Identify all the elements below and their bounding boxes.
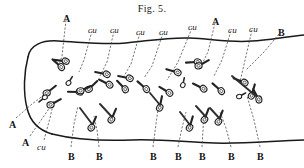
label-cu-top-6: cu: [228, 26, 237, 35]
label-cu-top-4: cu: [159, 28, 168, 37]
leader-A-left-2: [30, 104, 52, 136]
leader-cu-3: [124, 33, 140, 76]
nerve-end-organs-left: [37, 85, 91, 108]
leader-cu-2: [100, 31, 114, 76]
label-cu-top-2: cu: [110, 26, 119, 35]
label-B-bottom-4: B: [175, 152, 182, 162]
leader-A-left-1: [16, 95, 44, 118]
label-A-top-left: A: [63, 14, 70, 24]
label-cu-top-7: cu: [249, 25, 258, 34]
leader-B-6: [220, 112, 231, 147]
label-A-top-right: A: [212, 17, 219, 27]
leader-B-7: [247, 96, 260, 147]
label-cu-left: cu: [37, 143, 46, 152]
label-B-bottom-5: B: [199, 152, 206, 162]
label-cu-top-1: cu: [88, 26, 97, 35]
leader-cu-6: [214, 31, 231, 76]
label-B-bottom-7: B: [257, 152, 264, 162]
label-A-left-1: A: [9, 120, 16, 130]
leader-B-1: [71, 106, 78, 147]
leader-cu-7: [240, 30, 252, 82]
label-B-bottom-3: B: [150, 152, 157, 162]
leader-cu-1: [79, 31, 92, 72]
label-B-bottom-6: B: [228, 152, 235, 162]
label-B-bottom-1: B: [68, 152, 75, 162]
figure-root: Fig. 5.: [0, 0, 304, 168]
label-A-left-2: A: [22, 138, 29, 148]
label-cu-top-3: cu: [136, 28, 145, 37]
nerve-end-organs-upper: [52, 54, 262, 104]
label-B-top-right: B: [278, 28, 285, 38]
label-cu-top-5: cu: [188, 23, 197, 32]
label-B-bottom-2: B: [96, 152, 103, 162]
